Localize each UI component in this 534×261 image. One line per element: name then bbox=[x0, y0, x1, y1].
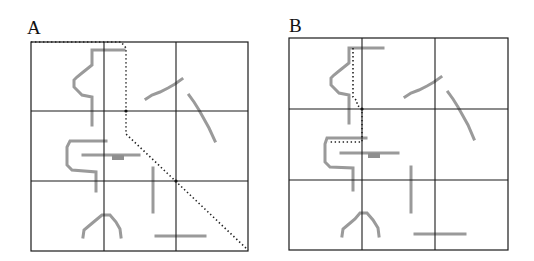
panel-frame bbox=[31, 42, 248, 251]
stroke-horizontal-middle-bump bbox=[112, 155, 124, 160]
stroke-horizontal-middle-bump bbox=[368, 153, 380, 158]
stroke-arch bbox=[83, 215, 121, 237]
stroke-c-shape bbox=[67, 141, 106, 191]
panel-a bbox=[31, 42, 248, 251]
stroke-falling-diagonal bbox=[189, 95, 215, 141]
path-node bbox=[124, 109, 127, 112]
stroke-zigzag-top-left bbox=[331, 48, 383, 123]
stroke-rising-diagonal bbox=[405, 77, 441, 97]
diagram-canvas bbox=[0, 0, 534, 261]
path-node bbox=[360, 107, 363, 110]
stroke-c-shape bbox=[325, 138, 366, 190]
stroke-falling-diagonal bbox=[448, 92, 474, 139]
panel-frame bbox=[289, 38, 508, 250]
panel-b bbox=[289, 38, 508, 250]
stroke-zigzag-top-left bbox=[74, 50, 124, 125]
stroke-arch bbox=[342, 213, 379, 236]
dotted-path bbox=[31, 42, 248, 250]
path-node bbox=[174, 179, 177, 182]
stroke-rising-diagonal bbox=[146, 79, 182, 99]
